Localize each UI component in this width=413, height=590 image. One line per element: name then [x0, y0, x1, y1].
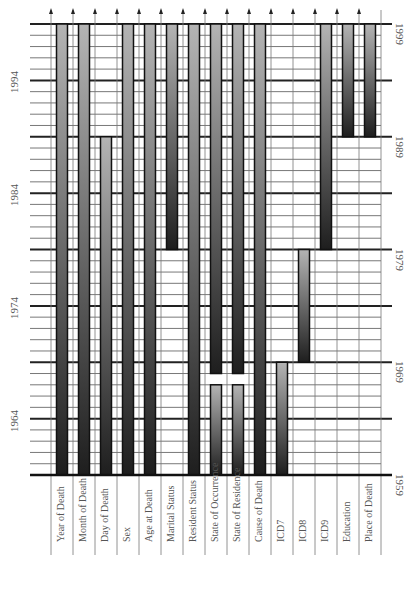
timeline-bar: [365, 24, 376, 137]
timeline-bar: [101, 137, 112, 475]
timeline-bar: [233, 385, 244, 475]
timeline-bar: [211, 24, 222, 374]
category-label: Age at Death: [143, 489, 154, 542]
timeline-bar: [211, 385, 222, 475]
arrow-up-icon: [291, 8, 295, 14]
category-label: Place of Death: [363, 483, 374, 542]
category-label: ICD9: [319, 520, 330, 542]
arrow-up-icon: [313, 8, 317, 14]
arrow-up-icon: [357, 8, 361, 14]
arrow-up-icon: [269, 8, 273, 14]
category-label: ICD8: [297, 520, 308, 542]
category-label: State of Occurrence: [209, 463, 220, 542]
arrow-up-icon: [71, 8, 75, 14]
arrow-up-icon: [49, 8, 53, 14]
arrow-up-icon: [335, 8, 339, 14]
year-tick-label-left: 1984: [8, 184, 20, 206]
timeline-bar: [299, 250, 310, 363]
year-tick-label-right: 1959: [394, 474, 406, 496]
category-label: Sex: [121, 527, 132, 542]
timeline-bar: [321, 24, 332, 250]
timeline-bar: [277, 362, 288, 475]
year-tick-label-left: 1964: [8, 410, 20, 432]
arrow-up-icon: [159, 8, 163, 14]
arrow-up-icon: [225, 8, 229, 14]
category-label: Cause of Death: [253, 480, 264, 542]
category-label: State of Residence: [231, 468, 242, 542]
category-label: Day of Death: [99, 488, 110, 542]
category-label: Resident Status: [187, 480, 198, 542]
arrow-up-icon: [115, 8, 119, 14]
arrow-up-icon: [93, 8, 97, 14]
year-tick-label-right: 1999: [394, 23, 406, 45]
timeline-bar: [79, 24, 90, 475]
timeline-bar: [167, 24, 178, 250]
timeline-bar: [123, 24, 134, 475]
timeline-bar: [255, 24, 266, 475]
year-tick-label-right: 1979: [394, 249, 406, 271]
year-tick-label-right: 1969: [394, 361, 406, 383]
arrow-up-icon: [247, 8, 251, 14]
timeline-bar: [233, 24, 244, 374]
year-tick-label-left: 1994: [8, 71, 20, 93]
category-label: Marital Status: [165, 486, 176, 542]
arrow-up-icon: [181, 8, 185, 14]
category-label: ICD7: [275, 520, 286, 542]
arrow-up-icon: [203, 8, 207, 14]
year-tick-label-left: 1974: [8, 297, 20, 319]
timeline-bar: [145, 24, 156, 475]
category-label: Month of Death: [77, 478, 88, 542]
year-tick-label-right: 1989: [394, 136, 406, 158]
arrow-up-icon: [137, 8, 141, 14]
category-label: Education: [341, 501, 352, 542]
timeline-bar: [57, 24, 68, 475]
timeline-bar: [189, 24, 200, 475]
category-label: Year of Death: [55, 486, 66, 542]
timeline-bar: [343, 24, 354, 137]
